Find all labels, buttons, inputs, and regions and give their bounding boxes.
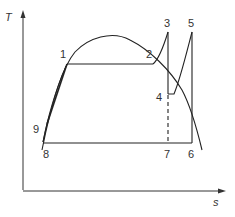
process-2-3 <box>153 32 168 64</box>
point-label-1: 1 <box>60 48 66 60</box>
point-label-4: 4 <box>156 91 162 103</box>
process-9-1 <box>47 64 67 124</box>
point-label-9: 9 <box>33 123 39 135</box>
point-label-2: 2 <box>146 48 152 60</box>
point-label-3: 3 <box>164 17 170 29</box>
point-label-6: 6 <box>188 148 194 160</box>
y-axis-label: T <box>5 11 13 23</box>
point-label-5: 5 <box>188 17 194 29</box>
point-label-8: 8 <box>43 148 49 160</box>
process-4-5 <box>168 32 192 94</box>
y-axis <box>21 10 26 190</box>
x-axis <box>23 189 226 194</box>
x-axis-label: s <box>213 196 219 208</box>
ts-diagram: T s 1 2 3 4 5 6 7 8 9 <box>0 0 235 217</box>
y-axis-arrow-icon <box>21 10 26 18</box>
point-label-7: 7 <box>164 148 170 160</box>
x-axis-arrow-icon <box>218 189 226 194</box>
